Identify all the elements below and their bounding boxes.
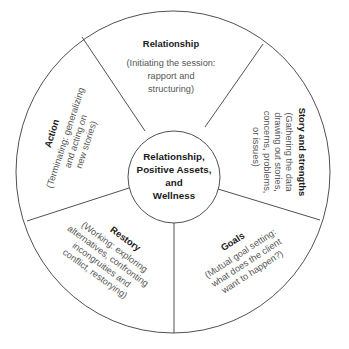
segment-title: Story and strengths [297,108,308,197]
segment-restory: Restory (Working: exploring alternatives… [53,203,165,306]
segment-story-and-strengths: Story and strengths (Gathering the data … [251,108,308,197]
segment-goals: Goals (Mutual goal setting: what does th… [195,214,290,299]
segment-desc-line: (Gathering the data [284,112,294,192]
center-label: Relationship, Positive Assets, and Welln… [137,151,212,201]
segment-title: Relationship [143,38,200,49]
segment-desc-line: rapport and [148,71,195,81]
segment-desc-line: or issues) [251,127,261,167]
segment-desc-line: (Initiating the session: [127,58,216,68]
segment-desc-line: structuring) [148,84,194,94]
segment-desc-line: drawing out stories, [273,112,283,192]
segment-relationship: Relationship (Initiating the session: ra… [127,38,216,94]
segment-desc-line: concerns, problems, [262,111,272,194]
divider-restory-action [27,188,129,221]
center-line-4: Wellness [153,190,196,201]
center-line-3: and [165,177,182,188]
five-stage-wheel-diagram: Relationship, Positive Assets, and Welln… [0,0,349,349]
segment-action: Action (Terminating: generalizing and ac… [30,82,107,197]
center-line-2: Positive Assets, [137,164,212,175]
center-line-1: Relationship, [143,151,205,162]
divider-action-relationship [82,37,145,131]
divider-relationship-story [205,44,263,127]
